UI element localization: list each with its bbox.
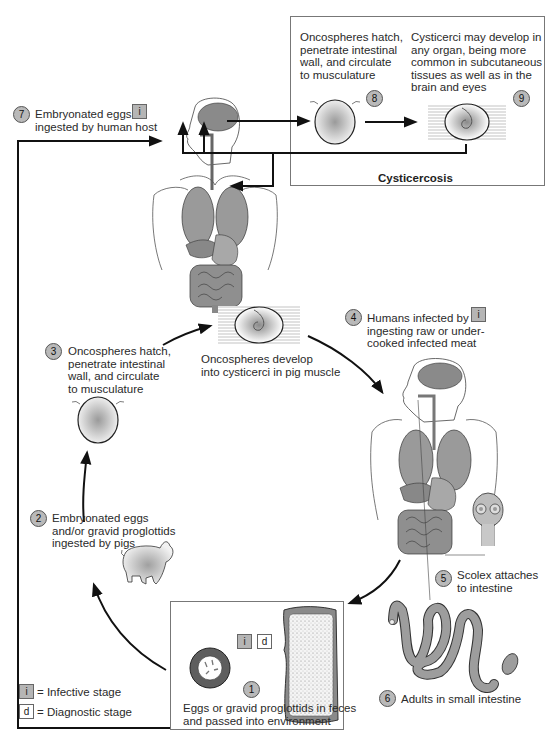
step-6-label: Adults in small intestine [401, 693, 521, 706]
cysticercus-illustration-9 [428, 104, 506, 140]
pig-muscle-label: Oncospheres develop into cysticerci in p… [201, 353, 340, 378]
step-9-label: Cysticerci may develop in any organ, bei… [411, 31, 542, 94]
cysticercus-pig-muscle-illustration [218, 306, 300, 344]
oncosphere-illustration-8 [310, 100, 360, 144]
legend-diagnostic-label: = Diagnostic stage [37, 706, 132, 719]
step-number-8: 8 [366, 90, 383, 107]
step-number-4: 4 [345, 309, 362, 326]
legend-diagnostic-tag: d [19, 704, 34, 719]
step-8-label: Oncospheres hatch, penetrate intestinal … [300, 31, 403, 81]
step-number-2: 2 [30, 510, 47, 527]
human-host-figure-right [371, 359, 498, 555]
infective-stage-tag: i [132, 104, 147, 119]
step-number-3: 3 [45, 343, 62, 360]
step-number-9: 9 [513, 90, 530, 107]
step-number-5: 5 [435, 570, 452, 587]
scolex-illustration [473, 493, 503, 546]
step-number-1: 1 [243, 681, 260, 698]
oncosphere-illustration-3 [72, 397, 124, 443]
legend-infective-tag: i [19, 684, 34, 699]
infective-stage-tag: i [471, 307, 486, 322]
cysticercosis-title: Cysticercosis [378, 172, 453, 184]
step-number-6: 6 [379, 690, 396, 707]
human-host-figure-top [153, 98, 278, 313]
step-5-label: Scolex attaches to intestine [457, 569, 538, 594]
infective-stage-tag: i [237, 634, 252, 649]
diagnostic-stage-tag: d [257, 634, 272, 649]
egg-illustration [190, 648, 230, 688]
step-4-label: Humans infected by ingesting raw or unde… [367, 312, 485, 350]
legend-infective-label: = Infective stage [37, 686, 121, 699]
step-2-label: Embryonated eggs and/or gravid proglotti… [52, 512, 175, 550]
step-1-label: Eggs or gravid proglottids in feces and … [183, 702, 356, 727]
step-number-7: 7 [13, 106, 30, 123]
step-3-label: Oncospheres hatch, penetrate intestinal … [68, 345, 171, 395]
